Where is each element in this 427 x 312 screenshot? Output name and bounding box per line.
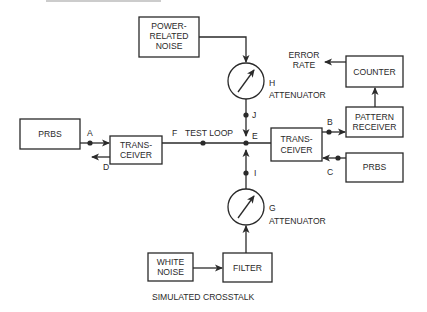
point-c-dot: [335, 155, 340, 160]
prbs-left-label: PRBS: [38, 129, 62, 139]
point-f-dot: [200, 140, 205, 145]
prbs-right-label: PRBS: [363, 162, 387, 172]
prbs-right-block: PRBS: [346, 153, 403, 182]
power-related-noise-block: POWER- RELATED NOISE: [139, 17, 199, 57]
point-i-label: I: [254, 168, 256, 178]
transceiver-left-label-1: TRANS-: [120, 140, 152, 150]
error-rate-label-2: RATE: [293, 60, 316, 70]
transceiver-right-label-2: CEIVER: [281, 145, 313, 155]
filter-label: FILTER: [233, 263, 262, 273]
error-rate-label-1: ERROR: [288, 50, 319, 60]
point-d-label: D: [103, 162, 109, 172]
point-i-dot: [243, 170, 248, 175]
counter-label: COUNTER: [353, 67, 396, 77]
point-j-dot: [243, 112, 248, 117]
point-j-label: J: [252, 110, 256, 120]
attenuator-g: G ATTENUATOR: [228, 189, 326, 226]
point-a-label: A: [87, 128, 93, 138]
test-loop-label: TEST LOOP: [185, 128, 233, 138]
prbs-left-block: PRBS: [20, 119, 80, 149]
attenuator-g-letter: G: [269, 203, 276, 213]
point-b-label: B: [327, 117, 333, 127]
transceiver-right-block: TRANS- CEIVER: [271, 128, 322, 161]
pattern-receiver-label-2: RECEIVER: [353, 122, 397, 132]
point-e-dot: [243, 140, 248, 145]
filter-block: FILTER: [223, 253, 272, 282]
attenuator-h-letter: H: [269, 78, 275, 88]
white-noise-label-1: WHITE: [157, 257, 185, 267]
power-noise-label-3: NOISE: [156, 41, 183, 51]
power-noise-label-2: RELATED: [150, 31, 189, 41]
pattern-receiver-block: PATTERN RECEIVER: [346, 107, 403, 137]
point-c-label: C: [327, 167, 333, 177]
white-noise-block: WHITE NOISE: [148, 253, 193, 281]
block-diagram: POWER- RELATED NOISE H ATTENUATOR J PRBS…: [0, 0, 427, 312]
white-noise-label-2: NOISE: [157, 267, 184, 277]
transceiver-left-block: TRANS- CEIVER: [110, 136, 162, 164]
pattern-receiver-label-1: PATTERN: [355, 112, 394, 122]
point-e-label: E: [252, 131, 258, 141]
attenuator-g-label: ATTENUATOR: [269, 216, 326, 226]
attenuator-h-label: ATTENUATOR: [269, 90, 326, 100]
power-noise-label-1: POWER-: [151, 21, 186, 31]
power-noise-to-h-arrow: [199, 37, 246, 62]
simulated-crosstalk-caption: SIMULATED CROSSTALK: [152, 292, 255, 302]
transceiver-left-label-2: CEIVER: [120, 150, 152, 160]
transceiver-right-label-1: TRANS-: [281, 134, 313, 144]
counter-block: COUNTER: [346, 56, 403, 87]
point-a-dot: [87, 140, 92, 145]
point-f-label: F: [172, 128, 177, 138]
point-b-dot: [326, 129, 331, 134]
